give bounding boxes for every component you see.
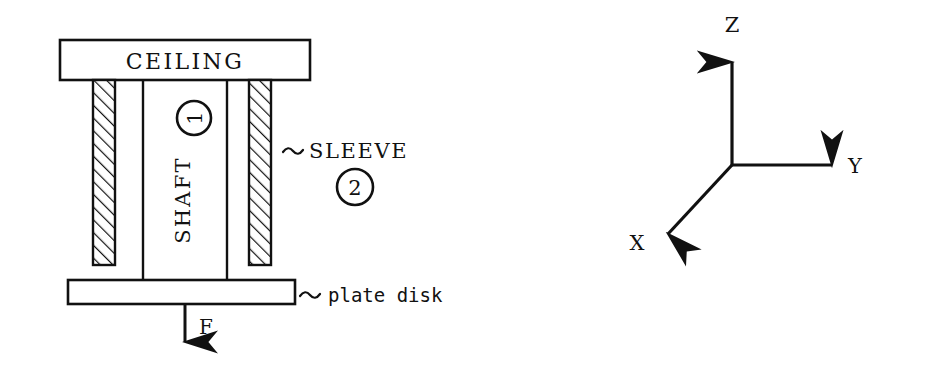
x-axis-line — [668, 165, 732, 234]
shaft-sleeve-assembly: CEILING SHAFT 1 — [60, 40, 443, 342]
plate-disk — [68, 280, 295, 304]
right-sleeve — [249, 80, 271, 265]
y-axis-label: Y — [847, 154, 863, 178]
left-sleeve — [93, 80, 115, 265]
force-label: F — [199, 315, 213, 339]
y-axis: Y — [732, 154, 863, 178]
figure-root: CEILING SHAFT 1 — [0, 0, 928, 373]
sleeve-callout-label: SLEEVE — [309, 139, 408, 163]
z-axis-label: Z — [725, 13, 740, 37]
plate-callout-tilde-icon — [300, 292, 320, 298]
z-axis: Z — [725, 13, 740, 165]
x-axis-label: X — [630, 231, 645, 255]
left-sleeve-rect — [93, 80, 115, 265]
plate-disk-rect — [68, 280, 295, 304]
right-sleeve-rect — [249, 80, 271, 265]
plate-disk-callout: plate disk — [300, 284, 443, 306]
force-arrow: F — [185, 304, 213, 342]
technical-diagram: CEILING SHAFT 1 — [0, 0, 928, 373]
x-axis: X — [630, 165, 732, 255]
marker-two: 2 — [337, 169, 373, 205]
sleeve-callout-tilde-icon — [283, 148, 303, 154]
ceiling-label: CEILING — [126, 49, 245, 74]
plate-callout-label: plate disk — [328, 284, 443, 306]
coordinate-axes: Z Y X — [630, 13, 864, 255]
ceiling-block: CEILING — [60, 40, 310, 80]
marker-two-label: 2 — [348, 176, 361, 200]
shaft-label: SHAFT — [171, 156, 195, 243]
sleeve-callout: SLEEVE — [283, 139, 408, 163]
marker-one: 1 — [177, 101, 211, 135]
marker-one-label: 1 — [183, 111, 207, 124]
